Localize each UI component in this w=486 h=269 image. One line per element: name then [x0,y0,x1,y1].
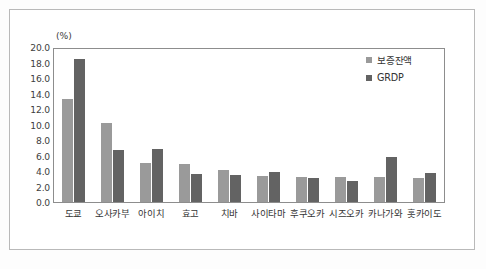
bar-1 [308,178,319,202]
bar-1 [347,181,358,202]
legend-item-1: GRDP [366,72,412,83]
bar-0 [62,99,73,202]
x-axis-tick-4: 치바 [210,206,249,228]
legend-label: GRDP [377,72,403,83]
y-axis-tick-5: 10.0 [12,121,50,131]
bar-0 [335,177,346,202]
bar-group [288,49,327,202]
bar-group [54,49,93,202]
y-axis-tick-0: 20.0 [12,43,50,53]
y-axis-tick-7: 6.0 [12,152,50,162]
legend-swatch-icon [366,75,372,81]
y-axis-tick-labels: 20.018.016.014.012.010.08.06.04.02.00.0 [12,42,50,209]
bar-1 [191,174,202,202]
bar-0 [218,170,229,202]
x-axis-tick-8: 카나가와 [366,206,405,228]
bar-0 [413,178,424,202]
bar-1 [269,172,280,202]
bar-0 [296,177,307,202]
bar-1 [152,149,163,202]
x-axis-tick-9: 홋카이도 [405,206,444,228]
x-axis-tick-6: 후쿠오카 [288,206,327,228]
bar-1 [113,150,124,202]
y-axis-unit-label: (%) [56,30,72,41]
bar-1 [386,157,397,202]
y-axis-tick-3: 14.0 [12,90,50,100]
y-axis-tick-2: 16.0 [12,74,50,84]
x-axis-tick-2: 아이치 [132,206,171,228]
y-axis-tick-1: 18.0 [12,59,50,69]
x-axis-tick-labels: 도쿄오사카부아이치효고치바사이타마후쿠오카시즈오카카나가와홋카이도 [54,206,444,228]
legend-item-0: 보증잔액 [366,53,412,67]
chart-legend: 보증잔액GRDP [366,53,412,83]
bar-0 [101,123,112,202]
bar-group [210,49,249,202]
legend-label: 보증잔액 [377,53,412,67]
bar-group [327,49,366,202]
x-axis-tick-1: 오사카부 [93,206,132,228]
bar-1 [425,173,436,202]
bar-group [93,49,132,202]
bar-1 [74,59,85,202]
bar-1 [230,175,241,202]
x-axis-tick-3: 효고 [171,206,210,228]
x-axis-tick-5: 사이타마 [249,206,288,228]
x-axis-tick-0: 도쿄 [54,206,93,228]
y-axis-tick-6: 8.0 [12,136,50,146]
bar-group [171,49,210,202]
legend-swatch-icon [366,57,372,63]
y-axis-tick-10: 0.0 [12,198,50,208]
chart-figure: (%) 20.018.016.014.012.010.08.06.04.02.0… [0,0,486,269]
bar-0 [179,164,190,202]
bar-group [249,49,288,202]
bar-0 [140,163,151,202]
bar-0 [257,176,268,202]
bar-group [132,49,171,202]
y-axis-tick-4: 12.0 [12,105,50,115]
y-axis-tick-8: 4.0 [12,167,50,177]
x-axis-tick-7: 시즈오카 [327,206,366,228]
bar-0 [374,177,385,202]
y-axis-tick-9: 2.0 [12,183,50,193]
